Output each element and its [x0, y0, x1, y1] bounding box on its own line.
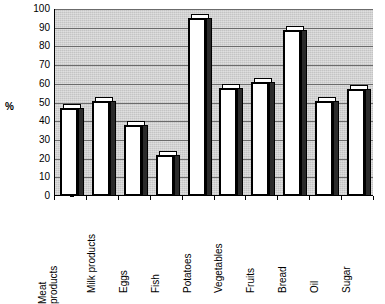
bar-front-face — [124, 125, 142, 196]
x-axis-category-label: Milk products — [86, 234, 97, 293]
x-axis-category-label: Oil — [309, 281, 320, 293]
y-axis-tick-label: 0 — [24, 191, 50, 201]
y-axis-tick-label: 20 — [24, 154, 50, 164]
bar[interactable] — [219, 83, 243, 196]
bar-front-face — [92, 101, 110, 196]
bar-top-face — [222, 84, 240, 89]
bar-front-face — [219, 88, 237, 196]
x-axis-label-line: Milk products — [86, 234, 97, 293]
bar[interactable] — [124, 120, 148, 196]
bar-side-face — [142, 125, 148, 196]
bar[interactable] — [251, 77, 275, 196]
bar-top-face — [350, 85, 368, 90]
x-axis-label-line: Sugar — [341, 266, 352, 293]
y-axis-tick-label: 80 — [24, 41, 50, 51]
bar-top-face — [254, 78, 272, 83]
bar-top-face — [318, 97, 336, 102]
bar-front-face — [315, 101, 333, 196]
bar[interactable] — [156, 150, 180, 196]
y-axis-tick-label: 10 — [24, 172, 50, 182]
x-axis-label-line: Eggs — [118, 270, 129, 293]
y-axis-title: % — [5, 101, 14, 112]
x-axis-label-line: Fruits — [245, 268, 256, 293]
bar-front-face — [251, 82, 269, 196]
x-axis-category-labels: MeatproductsMilk productsEggsFishPotatoe… — [54, 200, 373, 284]
bar-side-face — [206, 18, 212, 196]
y-axis-tick-label: 60 — [24, 79, 50, 89]
y-axis-tick-label: 40 — [24, 116, 50, 126]
x-axis-category-label: Eggs — [118, 270, 129, 293]
bar[interactable] — [347, 84, 371, 196]
x-axis-label-line: products — [48, 266, 59, 304]
x-axis-category-label: Vegetables — [213, 244, 224, 294]
y-axis-tick-label: 100 — [24, 4, 50, 14]
bar-side-face — [110, 101, 116, 196]
x-axis-category-label: Fish — [150, 274, 161, 293]
bar-side-face — [365, 89, 371, 196]
x-axis-category-label: Meatproducts — [37, 266, 59, 304]
plot-area — [54, 9, 373, 196]
x-axis-category-label: Sugar — [341, 266, 352, 293]
y-axis-tick-label: 90 — [24, 23, 50, 33]
x-axis-label-line: Bread — [277, 266, 288, 293]
bar-side-face — [269, 82, 275, 196]
x-axis-tick-mark — [373, 196, 374, 200]
bar-side-face — [237, 88, 243, 196]
bar[interactable] — [92, 96, 116, 196]
x-axis-label-line: Oil — [309, 281, 320, 293]
bar[interactable] — [283, 25, 307, 196]
y-axis-tick-label: 70 — [24, 60, 50, 70]
bar-top-face — [159, 151, 177, 156]
bar-side-face — [333, 101, 339, 196]
bar-front-face — [156, 155, 174, 196]
bar-front-face — [60, 108, 78, 196]
bar-top-face — [63, 104, 81, 109]
y-axis-tick-label: 50 — [24, 98, 50, 108]
x-axis-category-label: Bread — [277, 266, 288, 293]
y-axis-tick-labels: 1009080706050403020100 — [20, 0, 50, 284]
bar-front-face — [283, 30, 301, 196]
bar-top-face — [95, 97, 113, 102]
x-axis-label-line: Fish — [150, 274, 161, 293]
y-axis-tick-label: 30 — [24, 135, 50, 145]
bar-top-face — [286, 26, 304, 31]
bar-top-face — [191, 14, 209, 19]
x-axis-label-line: Vegetables — [213, 244, 224, 294]
bar[interactable] — [188, 13, 212, 196]
bar-side-face — [301, 30, 307, 196]
bar-front-face — [347, 89, 365, 196]
bars-layer — [55, 9, 373, 196]
bar-top-face — [127, 121, 145, 126]
x-axis-label-line: Meat — [37, 266, 48, 304]
x-axis-label-line: Potatoes — [182, 254, 193, 293]
bar-side-face — [78, 108, 84, 196]
bar-front-face — [188, 18, 206, 196]
x-axis-category-label: Potatoes — [182, 254, 193, 293]
bar[interactable] — [315, 96, 339, 196]
bar-side-face — [174, 155, 180, 196]
bar[interactable] — [60, 103, 84, 196]
x-axis-category-label: Fruits — [245, 268, 256, 293]
